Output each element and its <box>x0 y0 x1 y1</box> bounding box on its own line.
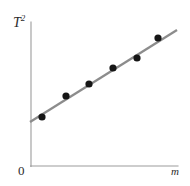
data-point <box>85 80 92 87</box>
data-point <box>62 92 69 99</box>
y-axis-label: T2 <box>13 14 25 30</box>
data-point <box>133 54 140 61</box>
origin-label: 0 <box>18 164 25 177</box>
data-point <box>38 113 45 120</box>
data-point <box>109 64 116 71</box>
y-axis-label-exponent: 2 <box>21 13 26 23</box>
figure-container: T2 m 0 <box>0 0 190 186</box>
x-axis-label: m <box>171 166 179 177</box>
data-point <box>154 34 161 41</box>
scatter-plot-svg <box>0 0 190 186</box>
best-fit-line <box>30 30 177 122</box>
trend-line-group <box>30 30 177 122</box>
y-axis-label-base: T <box>13 15 21 30</box>
